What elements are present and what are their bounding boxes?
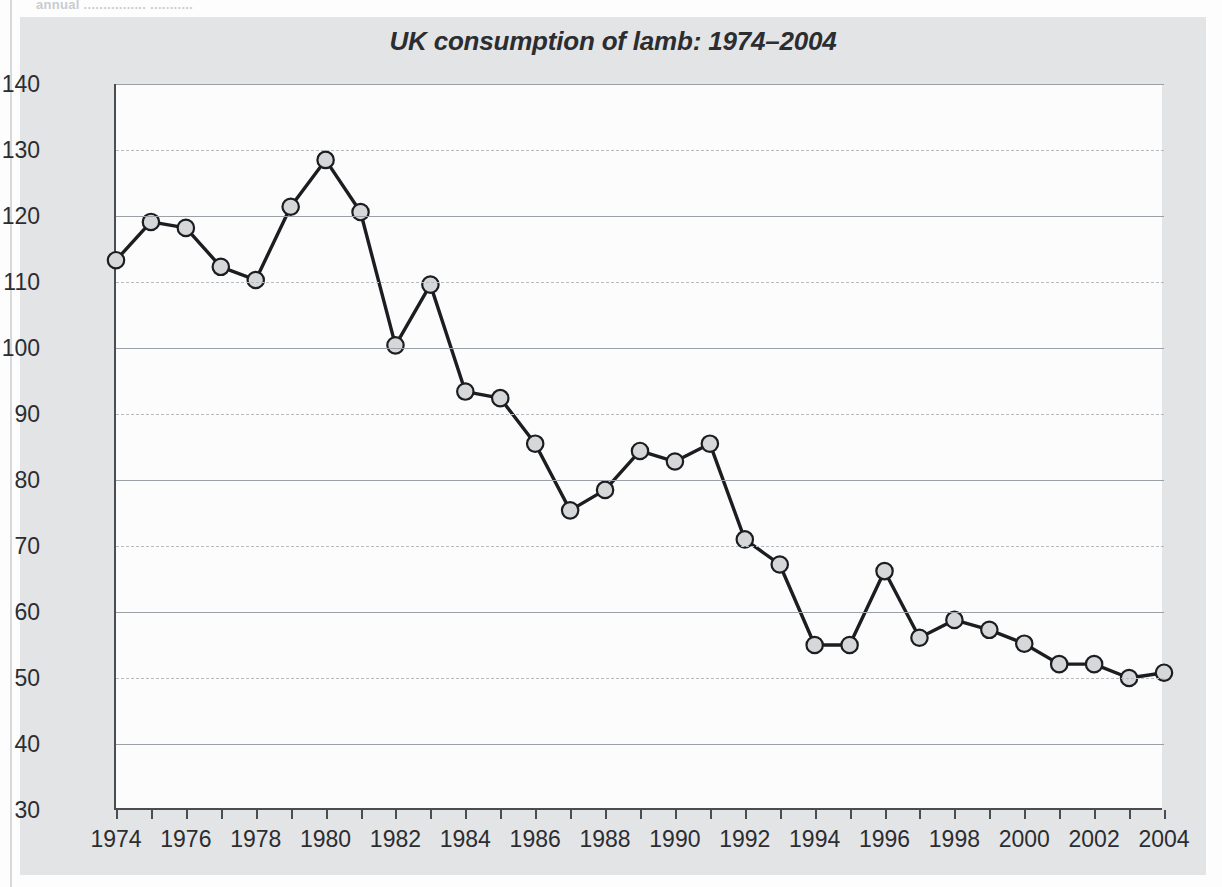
data-point: [632, 443, 648, 459]
x-tick-1995: [850, 810, 852, 819]
y-tick-label: 30: [0, 797, 40, 824]
y-tick-label: 110: [0, 269, 40, 296]
data-point: [387, 337, 403, 353]
data-point: [946, 612, 962, 628]
data-point: [178, 220, 194, 236]
clipped-header-text: annual ................ ...........: [36, 0, 456, 12]
data-point: [248, 272, 264, 288]
x-tick-1981: [361, 810, 363, 819]
gridline-y-130: [116, 150, 1164, 151]
data-point: [876, 563, 892, 579]
y-tick-label: 90: [0, 401, 40, 428]
x-tick-1979: [291, 810, 293, 819]
data-point: [841, 637, 857, 653]
x-tick-1977: [221, 810, 223, 819]
y-tick-label: 80: [0, 467, 40, 494]
y-tick-label: 140: [0, 71, 40, 98]
data-point: [806, 637, 822, 653]
data-point: [457, 383, 473, 399]
x-tick-1999: [989, 810, 991, 819]
x-tick-1975: [151, 810, 153, 819]
gridline-y-90: [116, 414, 1164, 415]
x-tick-2003: [1129, 810, 1131, 819]
series-markers: [108, 152, 1172, 687]
x-tick-1998: [954, 810, 956, 819]
gridline-y-100: [116, 348, 1164, 349]
gridline-y-70: [116, 546, 1164, 547]
x-tick-1982: [395, 810, 397, 819]
data-point: [1016, 635, 1032, 651]
y-tick-label: 70: [0, 533, 40, 560]
y-tick-label: 50: [0, 665, 40, 692]
page-root: annual ................ ........... UK c…: [0, 0, 1222, 887]
gridline-y-60: [116, 612, 1164, 613]
x-tick-1990: [675, 810, 677, 819]
data-point: [562, 502, 578, 518]
data-point: [108, 252, 124, 268]
x-tick-1989: [640, 810, 642, 819]
x-tick-1978: [256, 810, 258, 819]
data-point: [667, 453, 683, 469]
x-tick-2002: [1094, 810, 1096, 819]
gridline-y-80: [116, 480, 1164, 481]
gridline-y-120: [116, 216, 1164, 217]
data-point: [352, 204, 368, 220]
data-point: [1086, 656, 1102, 672]
x-tick-1992: [745, 810, 747, 819]
data-point: [981, 622, 997, 638]
x-tick-1996: [885, 810, 887, 819]
x-tick-1997: [919, 810, 921, 819]
data-point: [702, 436, 718, 452]
data-point: [492, 390, 508, 406]
x-tick-2004: [1164, 810, 1166, 819]
x-tick-1987: [570, 810, 572, 819]
y-tick-label: 60: [0, 599, 40, 626]
data-point: [597, 482, 613, 498]
x-tick-1993: [780, 810, 782, 819]
plot-area: 3040506070809010011012013014019741976197…: [114, 84, 1162, 810]
x-tick-2001: [1059, 810, 1061, 819]
data-point: [911, 630, 927, 646]
x-tick-2000: [1024, 810, 1026, 819]
chart-title: UK consumption of lamb: 1974–2004: [20, 26, 1206, 57]
x-tick-1983: [430, 810, 432, 819]
x-tick-1974: [116, 810, 118, 819]
series-line: [116, 160, 1164, 678]
data-series-layer: [116, 84, 1164, 810]
gridline-y-140: [116, 84, 1164, 85]
data-point: [317, 152, 333, 168]
x-tick-1976: [186, 810, 188, 819]
data-point: [527, 436, 543, 452]
x-tick-label: 2004: [1119, 826, 1209, 853]
x-tick-1994: [815, 810, 817, 819]
x-tick-1984: [465, 810, 467, 819]
data-point: [1051, 656, 1067, 672]
x-tick-1991: [710, 810, 712, 819]
data-point: [422, 276, 438, 292]
y-tick-label: 100: [0, 335, 40, 362]
y-tick-label: 130: [0, 137, 40, 164]
data-point: [772, 556, 788, 572]
gridline-y-110: [116, 282, 1164, 283]
gridline-y-50: [116, 678, 1164, 679]
x-tick-1985: [500, 810, 502, 819]
x-tick-1980: [326, 810, 328, 819]
gridline-y-40: [116, 744, 1164, 745]
y-tick-label: 120: [0, 203, 40, 230]
x-tick-1988: [605, 810, 607, 819]
data-point: [282, 199, 298, 215]
x-tick-1986: [535, 810, 537, 819]
data-point: [213, 259, 229, 275]
y-tick-label: 40: [0, 731, 40, 758]
